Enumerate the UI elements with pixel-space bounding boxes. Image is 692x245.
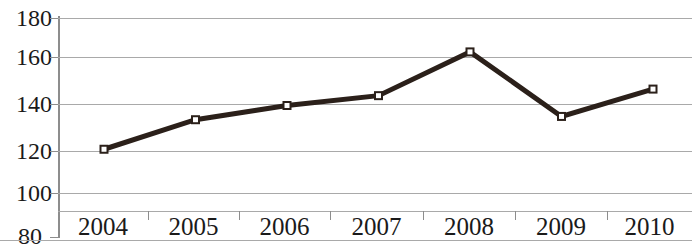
gridline-100 — [58, 193, 692, 194]
x-axis-label-2004: 2004 — [58, 214, 148, 240]
y-axis-tick-label: 100 — [0, 181, 52, 205]
y-axis-tick-label: 160 — [0, 45, 52, 69]
y-axis-tick-label: 80 — [18, 224, 42, 245]
gridline-140 — [58, 104, 692, 105]
plot-area — [58, 18, 692, 211]
x-axis-label-2008: 2008 — [423, 214, 515, 240]
x-axis-label-2010: 2010 — [607, 214, 692, 240]
y-axis-tick-mark — [50, 193, 58, 194]
gridline-160 — [58, 57, 692, 58]
gridline-180 — [58, 18, 692, 19]
gridline-120 — [58, 151, 692, 152]
y-axis-tick-mark — [50, 104, 58, 105]
y-axis-tick-mark — [50, 18, 58, 19]
x-axis-label-2006: 2006 — [239, 214, 330, 240]
y-axis-tick-label: 120 — [0, 139, 52, 163]
line-chart: 180 160 140 120 100 80 2004 2005 2006 20… — [0, 0, 692, 245]
y-axis-tick-mark — [50, 237, 58, 238]
y-axis-tick-label: 180 — [0, 6, 52, 30]
y-axis-tick-label: 140 — [0, 92, 52, 116]
y-axis-tick-mark — [50, 151, 58, 152]
y-axis-tick-mark — [50, 57, 58, 58]
y-axis-labels: 180 160 140 120 100 80 — [0, 0, 52, 245]
x-axis-label-2005: 2005 — [148, 214, 239, 240]
x-axis-label-2009: 2009 — [515, 214, 607, 240]
x-axis-line — [58, 211, 692, 212]
chart-bottom-border — [0, 240, 692, 241]
x-axis-label-2007: 2007 — [330, 214, 423, 240]
